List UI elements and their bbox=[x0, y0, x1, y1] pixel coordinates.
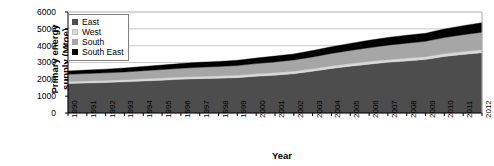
x-tick-2012: 2012 bbox=[485, 100, 493, 118]
x-tick-1993: 1993 bbox=[127, 100, 135, 118]
x-tick-2000: 2000 bbox=[259, 100, 267, 118]
x-tick-2003: 2003 bbox=[316, 100, 324, 118]
x-tick-1995: 1995 bbox=[165, 100, 173, 118]
x-tick-2006: 2006 bbox=[372, 100, 380, 118]
legend-swatch-icon-south bbox=[72, 39, 78, 45]
x-tick-2007: 2007 bbox=[391, 100, 399, 118]
legend-item-south: South bbox=[72, 38, 124, 48]
x-tick-2010: 2010 bbox=[447, 100, 455, 118]
x-tick-2011: 2011 bbox=[466, 101, 474, 118]
x-tick-2009: 2009 bbox=[429, 100, 437, 118]
legend-label-south: South bbox=[82, 38, 104, 47]
x-tick-1999: 1999 bbox=[240, 100, 248, 118]
x-tick-1997: 1997 bbox=[203, 100, 211, 118]
x-tick-2005: 2005 bbox=[353, 100, 361, 118]
legend-swatch-icon-east bbox=[72, 19, 78, 25]
x-tick-1992: 1992 bbox=[109, 100, 117, 118]
legend-label-east: East bbox=[82, 18, 99, 27]
x-tick-1996: 1996 bbox=[184, 100, 192, 118]
x-axis-title: Year bbox=[0, 150, 494, 161]
x-tick-2002: 2002 bbox=[297, 100, 305, 118]
legend-swatch-icon-west bbox=[72, 29, 78, 35]
legend-label-south-east: South East bbox=[82, 48, 124, 57]
x-tick-1998: 1998 bbox=[222, 100, 230, 118]
x-tick-2004: 2004 bbox=[334, 100, 342, 118]
x-tick-1991: 1991 bbox=[90, 100, 98, 118]
legend-item-west: West bbox=[72, 28, 124, 38]
x-tick-1990: 1990 bbox=[71, 100, 79, 118]
legend-swatch-icon-south-east bbox=[72, 49, 78, 55]
legend-label-west: West bbox=[82, 28, 101, 37]
chart-legend: East West South South East bbox=[68, 14, 129, 61]
x-tick-2001: 2001 bbox=[278, 100, 286, 118]
x-tick-1994: 1994 bbox=[146, 100, 154, 118]
x-tick-2008: 2008 bbox=[410, 100, 418, 118]
legend-item-east: East bbox=[72, 18, 124, 28]
energy-supply-stacked-area-chart: Primary energy supply (Mtoe) 6000 5000 4… bbox=[0, 0, 494, 166]
legend-item-south-east: South East bbox=[72, 48, 124, 58]
